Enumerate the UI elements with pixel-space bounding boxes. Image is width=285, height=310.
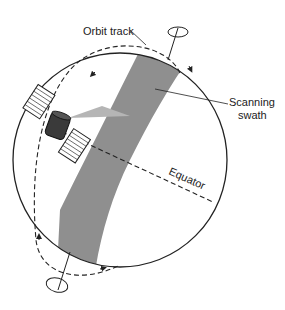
scanning-swath: [55, 50, 195, 310]
rotation-ellipse-bottom: [45, 275, 70, 294]
scanning-label-line1: Scanning: [229, 96, 275, 108]
swath-leader-line: [155, 89, 228, 104]
orbit-arrow-bottom: [100, 268, 104, 269]
orbit-diagram: Equator Orbit track Scanning swath: [0, 0, 285, 310]
orbit-arrow-right: [189, 66, 191, 70]
satellite-body: [44, 109, 72, 140]
equator-label: Equator: [167, 165, 207, 192]
axis-top: [168, 28, 178, 60]
solar-panel-upper: [23, 84, 55, 118]
orbit-track-label: Orbit track: [83, 25, 134, 37]
orbit-arrow-top: [92, 72, 95, 75]
scanning-label-line2: swath: [238, 109, 267, 121]
